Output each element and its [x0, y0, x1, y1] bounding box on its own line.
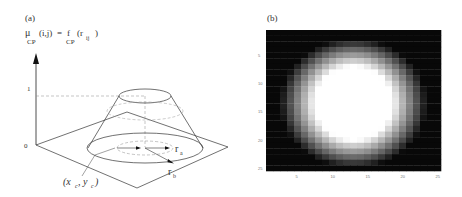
svg-text:r: r — [168, 166, 172, 177]
x-tick-label: 20 — [401, 174, 406, 179]
svg-text:μ: μ — [25, 27, 30, 38]
svg-text:): ) — [94, 176, 99, 188]
svg-text:r: r — [175, 143, 179, 154]
svg-text:(x: (x — [63, 176, 71, 188]
membership-formula: μ CP (i,j) = f CP (r ij ) — [25, 27, 98, 46]
x-tick-label: 15 — [366, 174, 371, 179]
x-tick-label: 25 — [436, 174, 441, 179]
panel-b-label: (b) — [267, 13, 278, 23]
svg-text:(r: (r — [77, 28, 83, 38]
svg-text:CP: CP — [27, 38, 36, 46]
y-tick-label: 20 — [258, 138, 263, 143]
axis-label-zero: 0 — [24, 142, 28, 150]
x-tick-label: 5 — [296, 174, 299, 179]
y-tick-label: 25 — [258, 166, 263, 171]
x-tick-label: 10 — [331, 174, 336, 179]
label-ra: r a — [175, 143, 183, 156]
axis-arrow-icon — [33, 53, 39, 64]
y-tick-label: 15 — [258, 109, 263, 114]
svg-text:c: c — [91, 183, 94, 189]
arrow-head-icon — [136, 146, 141, 149]
axis-label-one: 1 — [27, 85, 31, 93]
svg-text:=: = — [57, 28, 62, 38]
svg-text:f: f — [67, 28, 70, 38]
panel-a-cone-diagram: (a) μ CP (i,j) = f CP (r ij ) 1 0 — [0, 0, 240, 197]
svg-text:CP: CP — [66, 38, 75, 46]
panel-b-heatmap: (b) 510152025 510152025 — [240, 0, 462, 197]
panel-a-label: (a) — [25, 13, 35, 23]
svg-text:, y: , y — [78, 176, 88, 187]
y-axis-ticks: 510152025 — [258, 53, 263, 171]
y-tick-label: 5 — [258, 53, 261, 58]
center-coordinate-label: (x c , y c ) — [63, 176, 99, 189]
svg-text:ij: ij — [86, 35, 90, 41]
x-axis-ticks: 510152025 — [296, 174, 441, 179]
cone-side-right — [171, 96, 203, 148]
y-tick-label: 10 — [258, 81, 263, 86]
svg-text:a: a — [180, 150, 183, 156]
svg-text:(i,j): (i,j) — [39, 28, 52, 38]
cone-side-left — [88, 96, 119, 148]
svg-text:b: b — [173, 173, 176, 179]
arrow-head-icon — [165, 146, 170, 149]
heatmap-image — [266, 30, 441, 171]
svg-text:): ) — [95, 28, 98, 38]
